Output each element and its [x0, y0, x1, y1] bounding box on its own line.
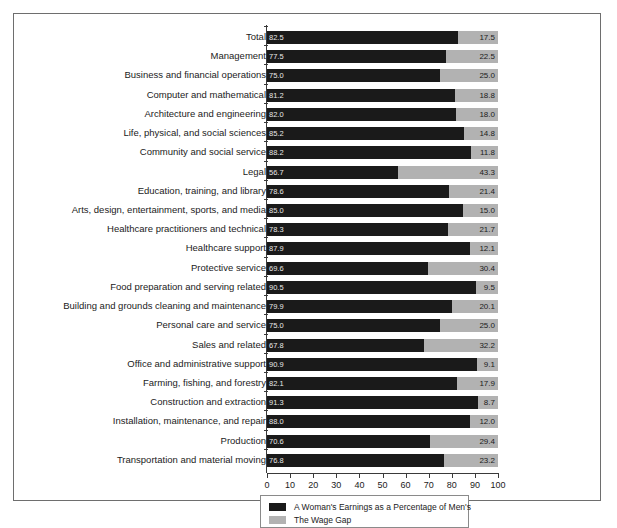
stacked-bar: 81.218.8: [267, 89, 498, 102]
stacked-bar: 70.629.4: [267, 435, 498, 448]
bar-segment-wage-gap: 17.5: [458, 31, 498, 44]
bar-value-wage-gap: 18.8: [479, 89, 495, 102]
bar-value-wage-gap: 25.0: [479, 319, 495, 332]
stacked-bar: 82.517.5: [267, 31, 498, 44]
category-label: Arts, design, entertainment, sports, and…: [72, 203, 266, 217]
bar-value-earnings: 69.6: [269, 262, 284, 275]
bar-value-wage-gap: 9.1: [484, 358, 495, 371]
bar-row: Protective service69.630.4: [14, 262, 602, 275]
x-axis-tick: [429, 474, 430, 478]
bar-value-wage-gap: 17.5: [479, 31, 495, 44]
stacked-bar: 77.522.5: [267, 50, 498, 63]
bar-row: Installation, maintenance, and repair88.…: [14, 415, 602, 428]
y-axis-tick: [264, 64, 268, 65]
bar-row: Personal care and service75.025.0: [14, 319, 602, 332]
bar-segment-earnings: 79.9: [267, 300, 452, 313]
legend-swatch-earnings: [269, 503, 286, 511]
bar-value-wage-gap: 21.7: [479, 223, 495, 236]
bar-segment-wage-gap: 32.2: [424, 339, 498, 352]
bar-row: Management77.522.5: [14, 50, 602, 63]
y-axis-tick: [264, 257, 268, 258]
category-label: Protective service: [191, 261, 266, 275]
chart-legend: A Woman's Earnings as a Percentage of Me…: [260, 495, 469, 528]
legend-swatch-wage-gap: [269, 516, 286, 524]
bar-value-wage-gap: 29.4: [479, 435, 495, 448]
bar-value-earnings: 78.6: [269, 185, 284, 198]
y-axis-tick: [264, 449, 268, 450]
stacked-bar: 78.621.4: [267, 185, 498, 198]
bar-value-earnings: 75.0: [269, 69, 284, 82]
stacked-bar: 85.015.0: [267, 204, 498, 217]
bar-segment-wage-gap: 12.0: [470, 415, 498, 428]
bar-value-earnings: 90.9: [269, 358, 284, 371]
y-axis-tick: [264, 410, 268, 411]
stacked-bar: 75.025.0: [267, 69, 498, 82]
bar-segment-earnings: 75.0: [267, 69, 440, 82]
x-axis-tick: [359, 474, 360, 478]
x-axis-tick-label: 100: [483, 480, 513, 490]
bar-segment-wage-gap: 43.3: [398, 166, 498, 179]
category-label: Production: [221, 434, 266, 448]
bar-value-wage-gap: 15.0: [479, 204, 495, 217]
y-axis-tick: [264, 180, 268, 181]
bar-value-earnings: 88.0: [269, 415, 284, 428]
bar-value-wage-gap: 11.8: [480, 146, 495, 159]
bar-segment-wage-gap: 9.5: [476, 281, 498, 294]
stacked-bar: 90.99.1: [267, 358, 498, 371]
bar-value-earnings: 78.3: [269, 223, 284, 236]
bar-segment-earnings: 88.2: [267, 146, 471, 159]
bar-value-wage-gap: 20.1: [479, 300, 495, 313]
y-axis-tick: [264, 334, 268, 335]
y-axis-tick: [264, 276, 268, 277]
bar-value-earnings: 91.3: [269, 396, 284, 409]
stacked-bar: 88.211.8: [267, 146, 498, 159]
stacked-bar: 76.823.2: [267, 454, 498, 467]
bar-row: Construction and extraction91.38.7: [14, 396, 602, 409]
bar-row: Production70.629.4: [14, 435, 602, 448]
x-axis-tick: [290, 474, 291, 478]
bar-row: Healthcare practitioners and technical78…: [14, 223, 602, 236]
bar-segment-wage-gap: 22.5: [446, 50, 498, 63]
y-axis-tick: [264, 218, 268, 219]
x-axis-tick: [267, 474, 268, 478]
bar-segment-wage-gap: 23.2: [444, 454, 498, 467]
bar-row: Community and social service88.211.8: [14, 146, 602, 159]
stacked-bar: 87.912.1: [267, 242, 498, 255]
bar-segment-wage-gap: 12.1: [470, 242, 498, 255]
bar-row: Total82.517.5: [14, 31, 602, 44]
bar-value-wage-gap: 8.7: [484, 396, 495, 409]
bar-row: Education, training, and library78.621.4: [14, 185, 602, 198]
x-axis-tick: [313, 474, 314, 478]
bar-segment-wage-gap: 15.0: [463, 204, 498, 217]
y-axis-tick: [264, 161, 268, 162]
category-label: Installation, maintenance, and repair: [113, 414, 266, 428]
bar-segment-earnings: 69.6: [267, 262, 428, 275]
bar-row: Architecture and engineering82.018.0: [14, 108, 602, 121]
bar-row: Business and financial operations75.025.…: [14, 69, 602, 82]
bar-segment-earnings: 70.6: [267, 435, 430, 448]
bar-value-earnings: 81.2: [269, 89, 284, 102]
category-label: Computer and mathematical: [147, 88, 266, 102]
bar-value-wage-gap: 23.2: [479, 454, 495, 467]
bar-segment-wage-gap: 25.0: [440, 319, 498, 332]
bar-segment-wage-gap: 25.0: [440, 69, 498, 82]
bar-value-wage-gap: 22.5: [479, 50, 495, 63]
y-axis-tick: [264, 430, 268, 431]
x-axis-tick: [406, 474, 407, 478]
bar-row: Life, physical, and social sciences85.21…: [14, 127, 602, 140]
bar-value-earnings: 85.0: [269, 204, 284, 217]
bar-row: Food preparation and serving related90.5…: [14, 281, 602, 294]
bar-row: Building and grounds cleaning and mainte…: [14, 300, 602, 313]
x-axis-tick: [452, 474, 453, 478]
bar-segment-earnings: 82.5: [267, 31, 458, 44]
bar-value-earnings: 90.5: [269, 281, 284, 294]
bar-segment-earnings: 81.2: [267, 89, 455, 102]
bar-value-wage-gap: 12.0: [479, 415, 495, 428]
bar-segment-earnings: 91.3: [267, 396, 478, 409]
y-axis-tick: [264, 45, 268, 46]
y-axis-tick: [264, 295, 268, 296]
stacked-bar: 78.321.7: [267, 223, 498, 236]
y-axis-tick: [264, 391, 268, 392]
category-label: Architecture and engineering: [145, 107, 266, 121]
category-label: Community and social service: [140, 145, 266, 159]
